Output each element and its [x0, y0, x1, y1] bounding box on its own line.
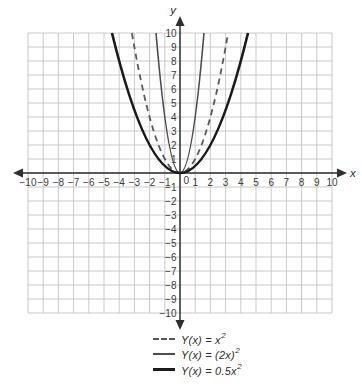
svg-text:7: 7: [284, 177, 290, 188]
svg-text:9: 9: [314, 177, 320, 188]
svg-text:3: 3: [171, 126, 177, 137]
svg-text:−3: −3: [165, 210, 177, 221]
svg-text:−1: −1: [165, 182, 177, 193]
svg-text:−10: −10: [20, 177, 37, 188]
svg-text:2: 2: [208, 177, 214, 188]
legend-swatch-thick-line: [153, 368, 175, 371]
svg-text:8: 8: [171, 56, 177, 67]
svg-text:−8: −8: [165, 280, 177, 291]
svg-text:5: 5: [253, 177, 259, 188]
legend-exponent: 2: [237, 362, 241, 371]
svg-text:3: 3: [223, 177, 229, 188]
svg-text:7: 7: [171, 70, 177, 81]
svg-text:1: 1: [192, 177, 198, 188]
svg-text:−2: −2: [144, 177, 156, 188]
svg-text:10: 10: [165, 28, 177, 39]
svg-text:6: 6: [171, 84, 177, 95]
svg-text:−5: −5: [165, 238, 177, 249]
svg-text:−5: −5: [98, 177, 110, 188]
svg-text:−7: −7: [68, 177, 80, 188]
legend-equation-text: Y(x) = (2x): [181, 349, 235, 361]
svg-text:4: 4: [171, 112, 177, 123]
legend: Y(x) = x2 Y(x) = (2x)2 Y(x) = 0.5x2: [153, 331, 242, 378]
plot-area: −10−9−8−7−6−5−4−3−2−112345678910−10−9−8−…: [0, 0, 362, 332]
svg-text:−4: −4: [165, 224, 177, 235]
svg-text:10: 10: [326, 177, 338, 188]
svg-text:5: 5: [171, 98, 177, 109]
svg-text:−6: −6: [165, 252, 177, 263]
svg-text:−8: −8: [53, 177, 65, 188]
svg-text:2: 2: [171, 140, 177, 151]
svg-text:−3: −3: [129, 177, 141, 188]
legend-label: Y(x) = x2: [181, 332, 226, 346]
legend-label: Y(x) = (2x)2: [181, 347, 240, 361]
svg-text:−6: −6: [83, 177, 95, 188]
legend-equation-text: Y(x) = x: [181, 334, 221, 346]
svg-text:−7: −7: [165, 266, 177, 277]
parabola-figure: −10−9−8−7−6−5−4−3−2−112345678910−10−9−8−…: [0, 0, 362, 391]
svg-text:−9: −9: [165, 294, 177, 305]
svg-text:9: 9: [171, 42, 177, 53]
legend-exponent: 2: [235, 346, 239, 355]
svg-text:−4: −4: [113, 177, 125, 188]
legend-item-x-squared: Y(x) = x2: [153, 331, 242, 347]
svg-text:−10: −10: [160, 308, 177, 319]
legend-equation-text: Y(x) = 0.5x: [181, 365, 237, 377]
legend-label: Y(x) = 0.5x2: [181, 363, 242, 377]
legend-exponent: 2: [221, 331, 225, 340]
svg-text:8: 8: [299, 177, 305, 188]
legend-item-half-x-squared: Y(x) = 0.5x2: [153, 362, 242, 378]
legend-swatch-dashed-line: [153, 338, 175, 340]
svg-text:6: 6: [268, 177, 274, 188]
svg-text:0: 0: [184, 175, 190, 186]
svg-text:−2: −2: [165, 196, 177, 207]
svg-text:−9: −9: [37, 177, 49, 188]
svg-text:4: 4: [238, 177, 244, 188]
legend-swatch-thin-line: [153, 353, 175, 355]
legend-item-2x-squared: Y(x) = (2x)2: [153, 347, 242, 363]
